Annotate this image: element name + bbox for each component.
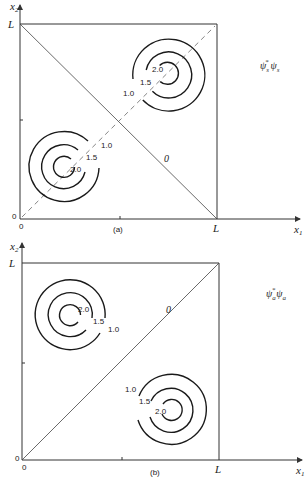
contour-label: 2.0 (152, 65, 164, 74)
origin-x-label: 0 (19, 222, 24, 231)
contour-1-0 (29, 132, 99, 202)
x-tick-L: L (214, 463, 221, 475)
contour-label: 2.0 (78, 305, 90, 314)
origin-y-label: 0 (12, 212, 17, 221)
origin-y-label: 0 (15, 454, 20, 463)
y-tick-L: L (8, 257, 15, 269)
panel-b: 2.0 1.5 1.0 2.0 1.5 1.0 x2 L 0 0 L x1 0 … (8, 240, 304, 478)
function-label: ψa*ψa (266, 286, 286, 302)
node-line-label: 0 (164, 153, 169, 164)
panel-a: 2.0 1.5 1.0 2.0 1.5 1.0 x2 L 0 0 L x1 0 … (7, 0, 302, 237)
contour-1-0 (138, 374, 206, 444)
contour-label: 2.0 (70, 165, 82, 174)
contour-label: 1.0 (123, 89, 135, 98)
node-line (22, 263, 219, 460)
contour-label: 1.5 (139, 397, 151, 406)
contour-label: 1.0 (125, 385, 137, 394)
panel-caption: (a) (113, 225, 123, 234)
contour-label: 1.5 (140, 78, 152, 87)
node-line-label: 0 (166, 304, 171, 315)
contour-1-5 (146, 52, 191, 98)
x-tick-L: L (212, 222, 219, 234)
contour-label: 1.0 (101, 141, 113, 150)
contour-label: 2.0 (155, 407, 167, 416)
contour-1-0 (133, 39, 205, 111)
y-axis-label: x2 (9, 240, 19, 254)
contour-label: 1.5 (93, 317, 105, 326)
probability-density-diagram: 2.0 1.5 1.0 2.0 1.5 1.0 x2 L 0 0 L x1 0 … (0, 0, 307, 481)
contour-1-5 (48, 293, 92, 337)
y-tick-L: L (7, 18, 14, 30)
x-axis-label: x1 (295, 464, 304, 478)
contour-label: 1.0 (108, 325, 120, 334)
contour-label: 1.5 (86, 153, 98, 162)
function-label: ψs*ψs (260, 58, 280, 74)
x-axis-label: x1 (293, 223, 302, 237)
contour-group-upper-right: 2.0 1.5 1.0 (123, 39, 205, 111)
contour-group-lower-left: 2.0 1.5 1.0 (29, 132, 113, 202)
origin-x-label: 0 (22, 463, 27, 472)
contour-1-0 (35, 280, 105, 350)
contour-group-upper-left: 2.0 1.5 1.0 (35, 280, 120, 350)
panel-caption: (b) (150, 468, 160, 477)
contour-group-lower-right: 2.0 1.5 1.0 (125, 374, 206, 444)
y-axis-label: x2 (9, 0, 19, 14)
